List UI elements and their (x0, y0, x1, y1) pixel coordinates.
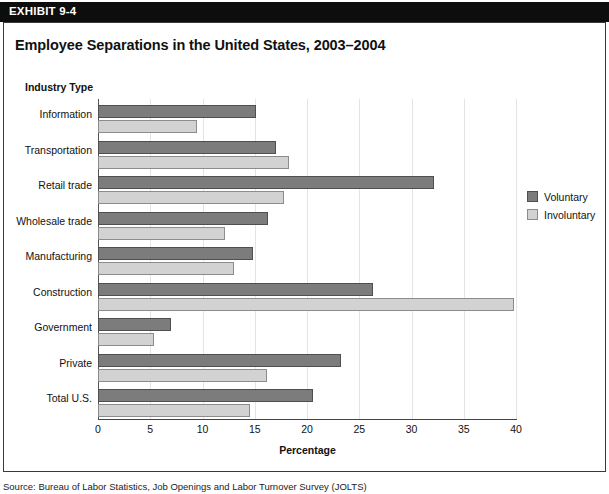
bar-group (98, 209, 516, 245)
bar-group (98, 138, 516, 174)
legend-swatch-icon (527, 209, 538, 220)
y-tick-label: Construction (4, 286, 92, 298)
x-tick-label: 5 (147, 423, 153, 435)
bar-group (98, 173, 516, 209)
bar (98, 191, 284, 204)
gridline (516, 99, 517, 419)
legend-swatch-icon (527, 191, 538, 202)
bar (98, 389, 313, 402)
chart-legend: VoluntaryInvoluntary (527, 187, 595, 223)
bar (98, 247, 253, 260)
bar (98, 212, 268, 225)
y-axis-title: Industry Type (25, 81, 93, 93)
bar (98, 176, 434, 189)
legend-item: Voluntary (527, 187, 595, 205)
bar-series-area (98, 99, 516, 419)
x-tick-label: 25 (353, 423, 365, 435)
x-tick-label: 15 (249, 423, 261, 435)
chart-frame: Employee Separations in the United State… (3, 22, 606, 472)
x-axis-title: Percentage (98, 444, 517, 456)
bar (98, 105, 256, 118)
bar (98, 404, 250, 417)
y-tick-label: Government (4, 321, 92, 333)
x-tick-label: 20 (301, 423, 313, 435)
x-tick-label: 35 (458, 423, 470, 435)
plot-wrapper: Industry Type InformationTransportationR… (4, 23, 607, 473)
bar (98, 333, 154, 346)
exhibit-figure: EXHIBIT 9-4 Employee Separations in the … (0, 0, 609, 494)
y-tick-label: Private (4, 357, 92, 369)
x-tick-label: 0 (95, 423, 101, 435)
legend-label: Involuntary (544, 209, 595, 221)
y-tick-label: Information (4, 108, 92, 120)
bar-group (98, 351, 516, 387)
x-tick-label: 40 (510, 423, 522, 435)
bar (98, 318, 171, 331)
source-note: Source: Bureau of Labor Statistics, Job … (3, 481, 367, 494)
bar-group (98, 315, 516, 351)
legend-label: Voluntary (544, 191, 588, 203)
bar (98, 298, 514, 311)
exhibit-number-label: EXHIBIT 9-4 (9, 5, 76, 17)
bar (98, 120, 197, 133)
bar (98, 156, 289, 169)
y-tick-label: Manufacturing (4, 250, 92, 262)
y-tick-label: Wholesale trade (4, 215, 92, 227)
bar (98, 354, 341, 367)
bar (98, 227, 225, 240)
bar (98, 283, 373, 296)
exhibit-tab-bar: EXHIBIT 9-4 (0, 2, 609, 22)
y-tick-label: Total U.S. (4, 392, 92, 404)
y-tick-label: Retail trade (4, 179, 92, 191)
x-tick-label: 30 (406, 423, 418, 435)
bar-group (98, 280, 516, 316)
x-tick-label: 10 (197, 423, 209, 435)
bar (98, 262, 234, 275)
bar (98, 369, 267, 382)
y-tick-label: Transportation (4, 144, 92, 156)
legend-item: Involuntary (527, 205, 595, 223)
bar-group (98, 386, 516, 422)
bar-group (98, 244, 516, 280)
bar (98, 141, 276, 154)
bar-group (98, 102, 516, 138)
